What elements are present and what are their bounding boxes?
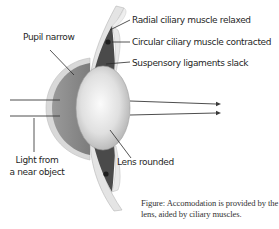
label-lens-rounded: Lens rounded <box>117 157 174 167</box>
label-light-line1: Light from <box>7 155 67 165</box>
label-suspensory-ligaments: Suspensory ligaments slack <box>132 58 248 68</box>
label-radial-ciliary-muscle: Radial ciliary muscle relaxed <box>132 15 251 25</box>
figure-caption: Figure: Accomodation is provided by the … <box>141 198 278 220</box>
caption-line-1: Figure: Accomodation is provided by the <box>141 198 278 209</box>
caption-line-2: lens, aided by ciliary muscles. <box>141 209 278 220</box>
lens <box>76 66 130 150</box>
label-pupil-narrow: Pupil narrow <box>23 32 74 42</box>
label-circular-ciliary-muscle: Circular ciliary muscle contracted <box>132 37 271 47</box>
circular-muscle-dot-lower <box>103 171 108 176</box>
arrowhead-icon <box>216 111 221 115</box>
arrowhead-icon <box>216 102 221 106</box>
circular-muscle-dot-upper <box>105 39 110 44</box>
label-light-line2: a near object <box>3 167 71 177</box>
